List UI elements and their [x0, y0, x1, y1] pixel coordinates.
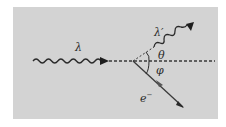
electron-label: e−	[140, 92, 152, 104]
incident-wavelength-label: λ	[75, 42, 82, 53]
scattered-photon-arrowhead	[186, 22, 194, 31]
phi-label: φ	[156, 65, 164, 76]
theta-angle-arc	[146, 52, 149, 61]
scattered-wavelength-label: λ′	[154, 27, 163, 38]
incident-photon-arrowhead	[100, 57, 109, 65]
scattered-direction-dashed	[133, 47, 154, 61]
electron-charge: −	[147, 91, 153, 99]
phi-angle-arc	[146, 61, 149, 74]
incident-photon-wave	[33, 59, 101, 63]
theta-label: θ	[158, 50, 165, 61]
compton-scattering-diagram	[0, 0, 226, 127]
